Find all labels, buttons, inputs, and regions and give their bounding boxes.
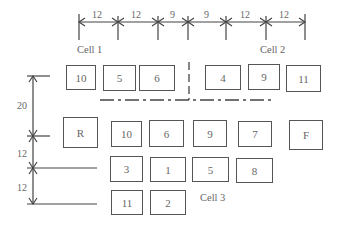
left-dim-label: 12 xyxy=(17,148,27,159)
machine-box: 5 xyxy=(192,157,229,182)
machine-box: 11 xyxy=(286,65,321,92)
left-dim-label: 12 xyxy=(17,182,27,193)
top-dim-label: 9 xyxy=(170,9,175,20)
machine-box: 7 xyxy=(238,121,272,147)
machine-box: 5 xyxy=(103,65,136,91)
top-dim-label: 12 xyxy=(279,9,289,20)
machine-box: 2 xyxy=(150,190,186,215)
machine-box: 1 xyxy=(150,157,186,182)
machine-box: 4 xyxy=(205,65,241,90)
machine-box: 10 xyxy=(66,65,96,90)
machine-box: 10 xyxy=(111,121,142,147)
top-dim-label: 12 xyxy=(131,9,141,20)
cell-1-label: Cell 1 xyxy=(77,44,102,55)
top-dim-label: 12 xyxy=(240,9,250,20)
machine-box: 3 xyxy=(110,156,143,182)
machine-box: 11 xyxy=(111,190,143,215)
top-dim-label: 9 xyxy=(204,9,209,20)
machine-box: 6 xyxy=(149,120,184,147)
machine-box: 9 xyxy=(193,120,227,147)
cell-2-label: Cell 2 xyxy=(260,44,285,55)
machine-box: 8 xyxy=(236,158,273,183)
machine-box: 9 xyxy=(248,64,280,90)
receiving-box: R xyxy=(63,117,98,148)
top-dim-label: 12 xyxy=(92,9,102,20)
cell-3-label: Cell 3 xyxy=(200,192,225,203)
finishing-box: F xyxy=(289,120,323,150)
left-dim-label: 20 xyxy=(17,100,27,111)
machine-box: 6 xyxy=(139,65,175,91)
